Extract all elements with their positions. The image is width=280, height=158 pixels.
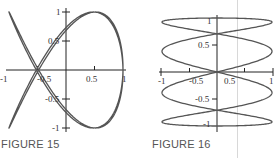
x-tick-label: -1: [158, 76, 166, 86]
figure-15-plot: -1 -0.5 0.5 1 1 0.5 -0.5 -1: [0, 0, 140, 140]
y-tick-label: -1: [203, 119, 211, 129]
y-tick-label: 1: [207, 16, 212, 26]
y-tick-label: -0.5: [195, 94, 210, 104]
x-tick-label: 1: [122, 74, 127, 84]
x-tick-label: 1: [269, 76, 274, 86]
figure-16-plot: -1 -0.5 0.5 1 1 0.5 -0.5 -1: [140, 0, 280, 140]
figure-15-caption: FIGURE 15: [1, 138, 60, 150]
x-tick-label: -1: [0, 74, 8, 84]
y-tick-label: -1: [52, 123, 60, 133]
x-tick-label: 0.5: [224, 76, 236, 86]
x-tick-label: 0.5: [86, 74, 98, 84]
y-tick-label: 1: [56, 7, 61, 17]
figure-16-caption: FIGURE 16: [152, 138, 211, 150]
x-tick-label: -0.5: [37, 74, 52, 84]
y-tick-label: 0.5: [198, 40, 210, 50]
y-tick-label: 0.5: [48, 36, 60, 46]
y-tick-label: -0.5: [45, 94, 60, 104]
x-tick-label: -0.5: [189, 76, 204, 86]
